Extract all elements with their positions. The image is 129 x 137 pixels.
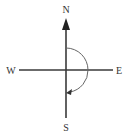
compass-diagram: N W E S	[0, 0, 129, 137]
label-south: S	[63, 122, 69, 133]
label-east: E	[116, 65, 122, 76]
rotation-arrowhead-icon	[66, 89, 72, 95]
north-arrow-icon	[62, 18, 70, 30]
label-north: N	[62, 4, 69, 15]
label-west: W	[6, 65, 16, 76]
